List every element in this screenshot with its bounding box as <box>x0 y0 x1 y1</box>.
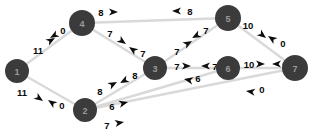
node-4[interactable]: 4 <box>69 10 95 36</box>
arrow-head-4-to-5 <box>109 8 118 15</box>
node-2[interactable]: 2 <box>73 98 97 122</box>
edge-weight-3-to-4: 7 <box>140 48 145 59</box>
edge-weight-2-to-6: 6 <box>109 101 114 112</box>
arrow-head-2-to-7 <box>115 118 125 127</box>
edge-weight-5-to-4: 8 <box>187 6 192 17</box>
node-3[interactable]: 3 <box>143 56 167 80</box>
arrow-head-6-to-7 <box>256 60 265 67</box>
node-label-1: 1 <box>14 67 19 77</box>
node-7[interactable]: 7 <box>282 55 308 81</box>
edge-line-4-5 <box>82 18 228 23</box>
arrow-head-7-to-2 <box>245 87 255 95</box>
graph-canvas: 11011088777788771001006670 1234567 <box>0 0 311 138</box>
edge-weight-2-to-3: 8 <box>97 86 102 97</box>
edge-weight-3-to-5: 7 <box>174 46 179 57</box>
arrow-head-2-to-3 <box>107 79 118 90</box>
edge-weight-7-to-5: 0 <box>280 38 285 49</box>
node-label-6: 6 <box>225 64 230 74</box>
arrow-head-5-to-4 <box>172 7 181 14</box>
node-5[interactable]: 5 <box>215 5 241 31</box>
arrow-head-7-to-6 <box>272 60 281 67</box>
node-label-2: 2 <box>82 106 87 116</box>
edge-weight-4-to-5: 8 <box>98 7 103 18</box>
edge-weight-5-to-7: 10 <box>243 20 254 31</box>
arrow-head-7-to-5 <box>266 33 277 44</box>
edge-weight-1-to-2: 11 <box>17 87 28 98</box>
edge-weight-6-to-7: 10 <box>244 59 255 70</box>
node-6[interactable]: 6 <box>216 56 240 80</box>
node-label-5: 5 <box>225 14 230 24</box>
edge-weight-2-to-1: 0 <box>59 100 64 111</box>
node-1[interactable]: 1 <box>5 59 29 83</box>
edge-weight-4-to-1: 0 <box>60 25 65 36</box>
edge-weight-3-to-6: 7 <box>174 61 179 72</box>
arrow-head-2-to-1 <box>46 97 58 108</box>
node-label-7: 7 <box>292 64 297 74</box>
edge-weight-4-to-3: 7 <box>107 28 112 39</box>
edge-weight-3-to-2: 8 <box>132 70 137 81</box>
edge-weight-5-to-3: 7 <box>203 25 208 36</box>
edge-weight-2-to-7: 7 <box>104 120 109 131</box>
arrow-head-1-to-2 <box>34 93 46 104</box>
edge-weight-1-to-4: 11 <box>33 45 44 56</box>
graph-diagram: 11011088777788771001006670 1234567 <box>0 0 311 138</box>
node-label-3: 3 <box>152 64 157 74</box>
edge-weight-7-to-2: 0 <box>259 84 264 95</box>
edge-weight-6-to-2: 6 <box>195 73 200 84</box>
node-label-4: 4 <box>79 19 84 29</box>
arrow-head-5-to-7 <box>257 30 269 41</box>
